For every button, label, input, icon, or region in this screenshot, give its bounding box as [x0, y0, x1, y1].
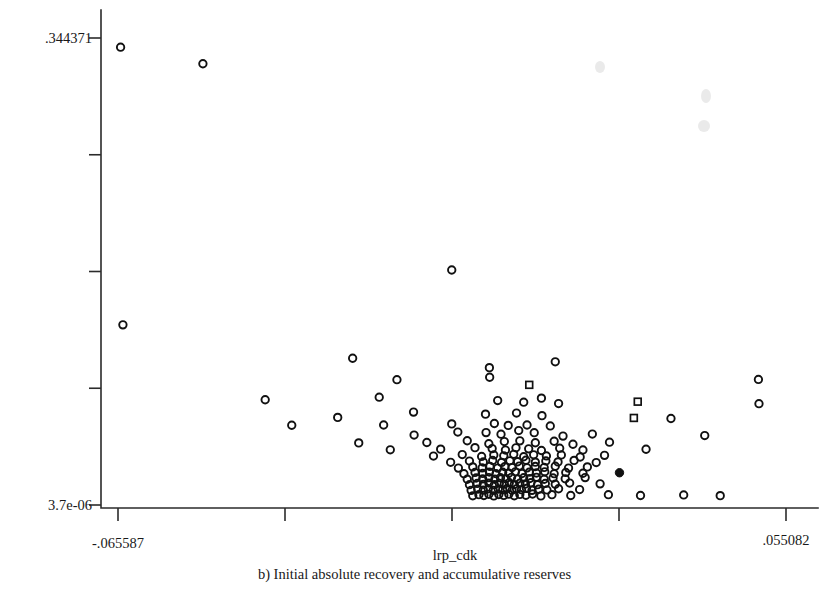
data-point [552, 358, 559, 365]
data-point [530, 451, 537, 458]
data-point [589, 430, 596, 437]
data-point [532, 439, 539, 446]
data-point [471, 444, 478, 451]
data-point [548, 491, 555, 498]
data-point [520, 399, 527, 406]
axis-label-layer: .344371 3.7e-06 -.065587 .055082 lrp_cdk [45, 30, 810, 563]
data-point [505, 422, 512, 429]
plot-canvas: .344371 3.7e-06 -.065587 .055082 lrp_cdk [0, 0, 829, 598]
x-axis-tick-label-min: -.065587 [92, 535, 144, 551]
figure-caption: b) Initial absolute recovery and accumul… [0, 566, 829, 583]
data-point [523, 421, 530, 428]
data-point [410, 431, 417, 438]
data-point [550, 438, 557, 445]
data-point [288, 422, 295, 429]
data-point [642, 446, 649, 453]
data-point [567, 492, 574, 499]
data-point [380, 421, 387, 428]
data-point [482, 410, 489, 417]
data-point [491, 420, 498, 427]
data-point [605, 491, 612, 498]
data-point [448, 420, 455, 427]
data-point [513, 409, 520, 416]
data-point [593, 459, 600, 466]
data-point [199, 60, 206, 67]
data-point [355, 439, 362, 446]
y-axis-tick-label-min: 3.7e-06 [48, 497, 92, 513]
data-point [606, 439, 613, 446]
data-point [334, 414, 341, 421]
data-point [437, 445, 444, 452]
data-point [538, 394, 545, 401]
data-point-layer [117, 43, 763, 499]
data-point [596, 480, 603, 487]
data-point [497, 431, 504, 438]
data-point [755, 400, 762, 407]
data-point [447, 459, 454, 466]
data-point-square [526, 381, 533, 388]
figure-caption-region: b) Initial absolute recovery and accumul… [0, 566, 829, 598]
data-point [430, 452, 437, 459]
y-axis-ticks [89, 38, 101, 505]
data-point-square [630, 415, 637, 422]
data-point [755, 376, 762, 383]
data-point [349, 355, 356, 362]
data-point [486, 364, 493, 371]
data-point [559, 432, 566, 439]
data-point-square [634, 398, 641, 405]
data-point [423, 439, 430, 446]
data-point [531, 429, 538, 436]
data-point [448, 266, 455, 273]
data-point [117, 43, 124, 50]
y-axis-tick-label-max: .344371 [45, 30, 92, 46]
data-point [119, 321, 126, 328]
axes-layer [89, 10, 818, 521]
data-point [637, 492, 644, 499]
data-point [501, 438, 508, 445]
data-point [569, 441, 576, 448]
data-point [547, 422, 554, 429]
x-axis-tick-label-max: .055082 [762, 532, 809, 548]
data-point [576, 486, 583, 493]
scatter-plot-figure: .344371 3.7e-06 -.065587 .055082 lrp_cdk… [0, 0, 829, 598]
data-point [494, 397, 501, 404]
data-point [410, 408, 417, 415]
data-point [537, 492, 544, 499]
data-point [459, 451, 466, 458]
data-point [701, 432, 708, 439]
data-point [717, 492, 724, 499]
scan-artifacts [595, 61, 711, 132]
data-point [601, 452, 608, 459]
data-point [515, 427, 522, 434]
data-point-filled [615, 469, 623, 477]
data-point [464, 437, 471, 444]
data-point [538, 412, 545, 419]
data-point [261, 396, 268, 403]
data-point [454, 428, 461, 435]
data-point [393, 376, 400, 383]
data-point [570, 457, 577, 464]
data-point [667, 415, 674, 422]
data-point [680, 491, 687, 498]
data-point [486, 374, 493, 381]
data-point [482, 429, 489, 436]
data-point [555, 400, 562, 407]
data-point [376, 393, 383, 400]
x-axis-ticks [118, 508, 786, 521]
data-point [387, 446, 394, 453]
x-axis-title: lrp_cdk [433, 547, 478, 563]
